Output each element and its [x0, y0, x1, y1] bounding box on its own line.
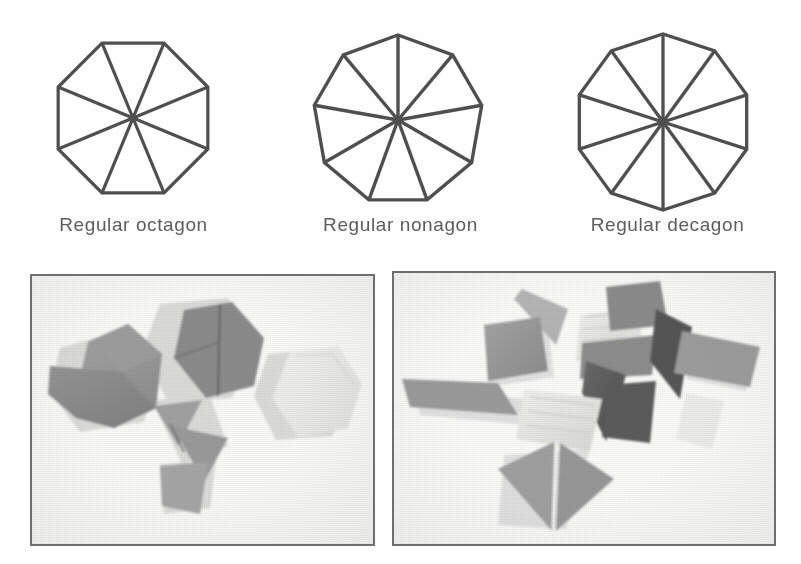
- figure-page: Regular octagon Regular nonagon Regular …: [0, 0, 801, 564]
- polygon-radius-decagon-9: [663, 51, 715, 122]
- polygon-cell-decagon: Regular decagon: [534, 0, 801, 255]
- hexagon-pieces-photo: [30, 274, 375, 546]
- piece-rhombus-top-left: [484, 317, 548, 381]
- polygon-label-octagon: Regular octagon: [0, 214, 267, 236]
- polygon-label-decagon: Regular decagon: [534, 214, 801, 236]
- polygon-radius-nonagon-6: [369, 120, 398, 200]
- polygon-radius-decagon-7: [611, 51, 663, 122]
- regular-decagon-diagram: [534, 0, 801, 212]
- rhombus-pieces-illustration: [394, 273, 774, 544]
- polygon-cell-nonagon: Regular nonagon: [267, 0, 534, 255]
- polygon-radius-decagon-1: [663, 122, 747, 149]
- regular-octagon-diagram: [0, 0, 267, 212]
- polygon-radius-decagon-5: [579, 122, 663, 149]
- polygon-radius-nonagon-5: [398, 120, 427, 200]
- polygon-radius-decagon-2: [663, 122, 715, 193]
- rhombus-pieces-photo-content: [394, 273, 774, 544]
- polygon-radius-nonagon-4: [398, 120, 472, 163]
- polygon-radius-decagon-6: [579, 95, 663, 122]
- hexagon-pieces-photo-content: [32, 276, 373, 544]
- polygon-row: Regular octagon Regular nonagon Regular …: [0, 0, 801, 255]
- rhombus-pieces-photo: [392, 271, 776, 546]
- hexagon-pieces-illustration: [32, 276, 373, 544]
- polygon-radius-decagon-4: [611, 122, 663, 193]
- piece-triangle-dark-centre-2: [602, 381, 656, 443]
- polygon-cell-octagon: Regular octagon: [0, 0, 267, 255]
- piece-triangle-lower: [160, 462, 208, 514]
- polygon-label-nonagon: Regular nonagon: [267, 214, 534, 236]
- polygon-radius-nonagon-7: [324, 120, 398, 163]
- polygon-radius-decagon-10: [663, 95, 747, 122]
- regular-nonagon-diagram: [267, 0, 534, 212]
